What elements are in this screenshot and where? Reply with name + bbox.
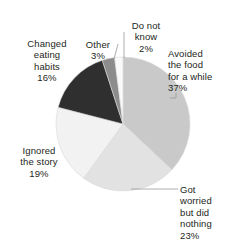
slice-value-ignored: 19% (2, 168, 76, 180)
slice-value-got-worried: 23% (180, 230, 242, 242)
slice-label-avoided: Avoided the food for a while 37% (168, 36, 244, 105)
slice-label-ignored: Ignored the story 19% (2, 133, 76, 191)
slice-label-do-not-know: Do not know 2% (122, 8, 170, 66)
slice-label-do-not-know-text: Do not know (132, 20, 161, 43)
slice-value-do-not-know: 2% (122, 43, 170, 55)
slice-value-avoided: 37% (168, 82, 244, 94)
slice-label-ignored-text: Ignored the story (20, 145, 57, 168)
slice-value-changed-eating-habits: 16% (12, 72, 82, 84)
slice-label-avoided-text: Avoided the food for a while (168, 48, 212, 82)
slice-label-got-worried-text: Got worried but did nothing (180, 184, 212, 230)
slice-label-changed-eating-habits-text: Changed eating habits (27, 38, 66, 72)
slice-label-other-text: Other (86, 39, 110, 50)
slice-value-other: 3% (78, 50, 118, 62)
slice-label-other: Other 3% (78, 27, 118, 73)
pie-chart: Avoided the food for a while 37% Got wor… (0, 0, 246, 250)
slice-label-got-worried: Got worried but did nothing 23% (180, 172, 242, 250)
slice-label-changed-eating-habits: Changed eating habits 16% (12, 26, 82, 95)
